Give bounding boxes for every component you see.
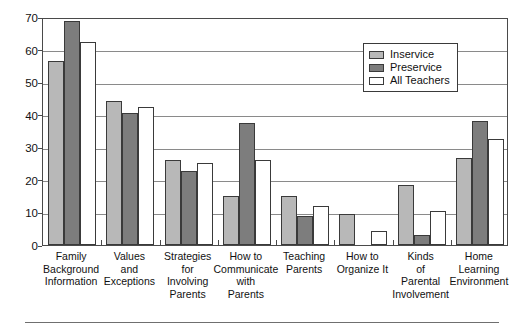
legend-item-label: Preservice: [390, 61, 442, 74]
x-axis-category-label-line: Home: [442, 250, 516, 263]
bar-group: [276, 19, 334, 245]
x-axis-tick-mark: [160, 240, 161, 245]
footer-divider: [25, 322, 499, 323]
bar-group-bars: [276, 19, 334, 245]
chart-legend: InservicePreserviceAll Teachers: [363, 43, 458, 92]
legend-item-preservice[interactable]: Preservice: [369, 61, 450, 74]
bar-group: [160, 19, 218, 245]
bar-group-bars: [160, 19, 218, 245]
bar-allteachers[interactable]: [138, 107, 154, 245]
legend-swatch-icon: [369, 51, 384, 59]
bar-allteachers[interactable]: [197, 163, 213, 245]
legend-swatch-icon: [369, 77, 384, 85]
y-axis-tick-label: 40: [4, 110, 38, 121]
bar-inservice[interactable]: [339, 214, 355, 245]
bar-allteachers[interactable]: [371, 231, 387, 245]
bar-group: [101, 19, 159, 245]
bar-allteachers[interactable]: [313, 206, 329, 245]
bar-allteachers[interactable]: [255, 160, 271, 245]
x-axis-category-label-line: Learning: [442, 263, 516, 276]
legend-item-label: Inservice: [390, 48, 434, 61]
bar-preservice[interactable]: [297, 216, 313, 245]
bar-group-bars: [218, 19, 276, 245]
x-axis-tick-mark: [451, 240, 452, 245]
bar-preservice[interactable]: [472, 121, 488, 245]
x-axis-tick-mark: [276, 240, 277, 245]
bar-inservice[interactable]: [398, 185, 414, 245]
bar-allteachers[interactable]: [488, 139, 504, 245]
x-axis-category-labels: FamilyBackgroundInformationValuesandExce…: [42, 250, 508, 330]
x-axis-tick-mark: [218, 240, 219, 245]
y-axis-tick-label: 0: [4, 241, 38, 252]
x-axis-category-label-line: Parents: [209, 288, 283, 301]
y-axis: 010203040506070: [0, 18, 38, 246]
bar-inservice[interactable]: [281, 196, 297, 245]
bar-inservice[interactable]: [48, 61, 64, 245]
x-axis-tick-mark: [334, 240, 335, 245]
legend-item-allteachers[interactable]: All Teachers: [369, 74, 450, 87]
x-axis-tick-mark: [101, 240, 102, 245]
y-axis-tick-label: 50: [4, 78, 38, 89]
x-axis-category-label-line: Involvement: [384, 288, 458, 301]
bar-allteachers[interactable]: [430, 211, 446, 245]
bar-group: [451, 19, 509, 245]
bar-preservice[interactable]: [414, 235, 430, 245]
bar-group: [218, 19, 276, 245]
x-axis-category-label: HomeLearningEnvironment: [442, 250, 516, 288]
bar-inservice[interactable]: [106, 101, 122, 245]
bar-inservice[interactable]: [223, 196, 239, 246]
x-axis-category-label-line: Environment: [442, 275, 516, 288]
x-axis-tick-mark: [393, 240, 394, 245]
y-axis-tick-label: 10: [4, 208, 38, 219]
bar-group: [43, 19, 101, 245]
bar-group-bars: [451, 19, 509, 245]
legend-item-label: All Teachers: [390, 74, 450, 87]
legend-swatch-icon: [369, 64, 384, 72]
bar-inservice[interactable]: [165, 160, 181, 245]
y-axis-tick-label: 70: [4, 13, 38, 24]
bar-group-bars: [101, 19, 159, 245]
legend-item-inservice[interactable]: Inservice: [369, 48, 450, 61]
bar-preservice[interactable]: [122, 113, 138, 245]
bar-inservice[interactable]: [456, 158, 472, 245]
bar-chart-figure: 010203040506070 FamilyBackgroundInformat…: [0, 0, 523, 333]
y-axis-tick-label: 30: [4, 143, 38, 154]
bar-preservice[interactable]: [64, 21, 80, 245]
bar-preservice[interactable]: [239, 123, 255, 245]
bar-preservice[interactable]: [181, 171, 197, 245]
x-axis-category-label-line: with: [209, 275, 283, 288]
bar-group-bars: [43, 19, 101, 245]
y-axis-tick-label: 20: [4, 175, 38, 186]
y-axis-tick-label: 60: [4, 45, 38, 56]
bar-allteachers[interactable]: [80, 42, 96, 245]
